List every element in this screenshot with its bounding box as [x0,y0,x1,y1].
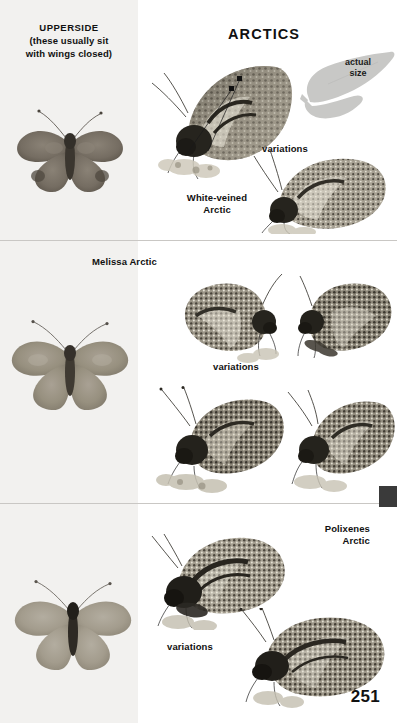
butterfly-upperside-icon [14,108,126,200]
variations-label-2: variations [213,361,259,373]
species-label-1-line2: Arctic [162,204,272,216]
actual-size-line1: actual [334,57,382,68]
species-label-1-line1: White-veined [162,192,272,204]
butterfly-sideview-icon [288,276,394,364]
butterfly-sideview-icon [180,272,285,364]
panel-divider-1 [0,240,397,241]
actual-size-line2: size [334,68,382,79]
butterfly-sideview-icon [278,390,397,494]
butterfly-silhouette-icon [298,44,397,122]
field-guide-page: UPPERSIDE (these usually sit with wings … [0,0,397,723]
upperside-subheading-line2: with wings closed) [0,48,138,61]
panel-divider-2 [0,503,397,504]
butterfly-upperside-icon [12,580,134,678]
species-label-1: White-veined Arctic [162,192,272,217]
page-number: 251 [351,687,380,707]
upperside-heading: UPPERSIDE [0,22,138,35]
butterfly-sideview-icon [150,386,290,496]
actual-size-label: actual size [334,57,382,80]
upperside-note: UPPERSIDE (these usually sit with wings … [0,22,138,60]
species-label-2: Melissa Arctic [92,256,157,268]
butterfly-upperside-icon [10,320,130,418]
variations-label-3: variations [167,641,213,653]
page-title: ARCTICS [228,26,300,42]
butterfly-sideview-icon [252,148,397,234]
upperside-subheading-line1: (these usually sit [0,35,138,48]
